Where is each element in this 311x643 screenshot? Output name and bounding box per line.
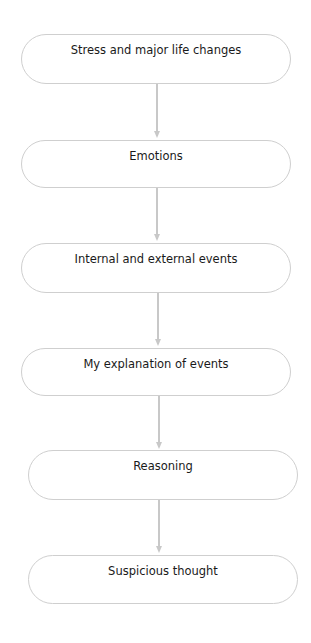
arrow-down-icon [156, 546, 162, 553]
connector-line [157, 293, 159, 340]
arrow-down-icon [154, 234, 160, 241]
flow-node-stress-and-life-changes: Stress and major life changes [21, 34, 291, 84]
flowchart: Stress and major life changes Emotions I… [0, 0, 311, 643]
node-label: Stress and major life changes [22, 35, 290, 57]
arrow-down-icon [155, 339, 161, 346]
connector-line [156, 84, 158, 132]
flow-node-suspicious-thought: Suspicious thought [28, 555, 298, 604]
node-label: My explanation of events [22, 349, 290, 371]
connector-line [158, 396, 160, 443]
connector-line [156, 188, 158, 235]
connector-line [158, 500, 160, 547]
node-label: Suspicious thought [29, 556, 297, 578]
node-label: Reasoning [29, 451, 297, 473]
flow-node-internal-external-events: Internal and external events [21, 243, 291, 293]
arrow-down-icon [156, 442, 162, 449]
arrow-down-icon [154, 131, 160, 138]
flow-node-reasoning: Reasoning [28, 450, 298, 500]
node-label: Internal and external events [22, 244, 290, 266]
flow-node-my-explanation: My explanation of events [21, 348, 291, 396]
flow-node-emotions: Emotions [21, 140, 291, 188]
node-label: Emotions [22, 141, 290, 163]
